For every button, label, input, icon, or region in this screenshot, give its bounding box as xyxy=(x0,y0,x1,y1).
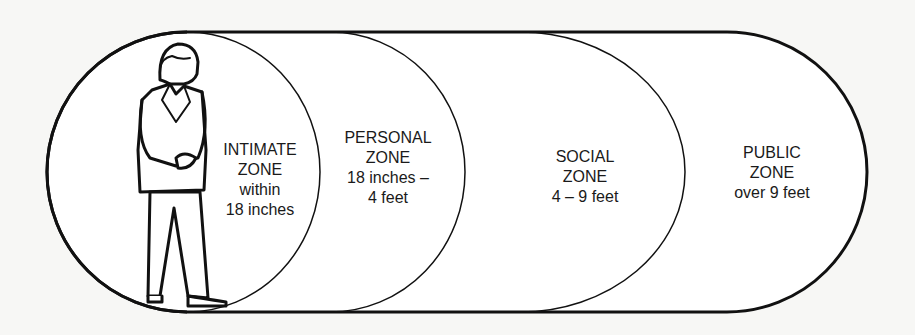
zone-distance: 4 – 9 feet xyxy=(552,187,619,207)
public-zone-label: PUBLIC ZONE over 9 feet xyxy=(734,143,810,203)
zone-name: PUBLIC xyxy=(734,143,810,163)
zone-name: INTIMATE xyxy=(223,140,296,160)
zone-distance: within xyxy=(223,180,296,200)
zone-word: ZONE xyxy=(223,160,296,180)
zone-word: ZONE xyxy=(734,163,810,183)
zone-name: PERSONAL xyxy=(344,128,431,148)
intimate-zone-label: INTIMATE ZONE within 18 inches xyxy=(223,140,296,220)
zone-distance-2: 4 feet xyxy=(344,188,431,208)
zone-name: SOCIAL xyxy=(552,147,619,167)
zone-distance-2: 18 inches xyxy=(223,200,296,220)
zone-word: ZONE xyxy=(552,167,619,187)
zone-word: ZONE xyxy=(344,148,431,168)
zone-distance: over 9 feet xyxy=(734,183,810,203)
social-zone-label: SOCIAL ZONE 4 – 9 feet xyxy=(552,147,619,207)
zone-distance: 18 inches – xyxy=(344,168,431,188)
personal-zone-label: PERSONAL ZONE 18 inches – 4 feet xyxy=(344,128,431,208)
